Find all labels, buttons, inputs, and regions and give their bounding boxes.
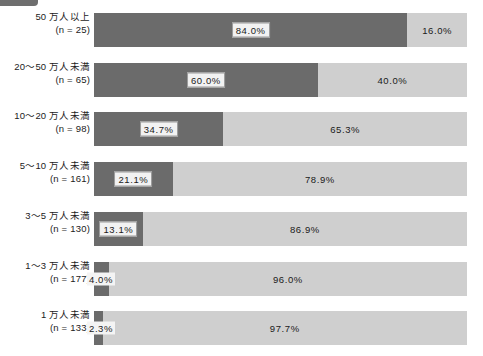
dark-segment-percent-label: 4.0%	[87, 273, 115, 286]
light-segment-percent-label: 86.9%	[290, 224, 320, 235]
category-label: 20〜50 万人未満(n = 65)	[0, 61, 90, 86]
dark-segment-percent-label: 84.0%	[232, 23, 270, 38]
chart-row: 3〜5 万人未満(n = 130)	[0, 212, 483, 246]
category-label-n: (n = 65)	[0, 74, 90, 87]
dark-segment-percent-label: 2.3%	[87, 322, 115, 335]
dark-segment-percent-label: 34.7%	[140, 122, 178, 137]
light-segment-percent-label: 96.0%	[273, 274, 303, 285]
light-segment-percent-label: 78.9%	[305, 174, 335, 185]
light-segment-percent-label: 65.3%	[330, 124, 360, 135]
category-label-n: (n = 25)	[0, 24, 90, 37]
chart-row: 1〜3 万人未満(n = 177)	[0, 262, 483, 296]
light-segment-percent-label: 16.0%	[422, 25, 452, 36]
category-label: 5〜10 万人未満(n = 161)	[0, 160, 90, 185]
chart-row: 10〜20 万人未満(n = 98)	[0, 112, 483, 146]
category-label-name: 5〜10 万人未満	[20, 160, 90, 171]
category-label: 1〜3 万人未満(n = 177)	[0, 260, 90, 285]
bar-track	[94, 13, 467, 47]
dark-segment-percent-label: 13.1%	[99, 222, 137, 237]
category-label-n: (n = 161)	[0, 173, 90, 186]
category-label-name: 10〜20 万人未満	[14, 110, 90, 121]
light-segment-percent-label: 40.0%	[377, 75, 407, 86]
stacked-bar-chart: 1 万人未満(n = 133)1〜3 万人未満(n = 177)3〜5 万人未満…	[0, 0, 483, 356]
dark-segment-percent-label: 21.1%	[114, 172, 152, 187]
category-label-n: (n = 130)	[0, 223, 90, 236]
bar-track	[94, 63, 467, 97]
light-segment-percent-label: 97.7%	[270, 323, 300, 334]
bar-track	[94, 212, 467, 246]
category-label-name: 3〜5 万人未満	[25, 210, 90, 221]
dark-segment-percent-label: 60.0%	[187, 73, 225, 88]
category-label-name: 20〜50 万人未満	[14, 61, 90, 72]
category-label: 3〜5 万人未満(n = 130)	[0, 210, 90, 235]
category-label: 1 万人未満(n = 133)	[0, 309, 90, 334]
category-label-n: (n = 98)	[0, 123, 90, 136]
category-label-name: 1 万人未満	[41, 309, 90, 320]
category-label-n: (n = 133)	[0, 322, 90, 335]
category-label: 10〜20 万人未満(n = 98)	[0, 110, 90, 135]
chart-row: 5〜10 万人未満(n = 161)	[0, 162, 483, 196]
category-label-n: (n = 177)	[0, 273, 90, 286]
category-label-name: 1〜3 万人未満	[25, 260, 90, 271]
chart-row: 20〜50 万人未満(n = 65)	[0, 63, 483, 97]
category-label: 50 万人以上(n = 25)	[0, 11, 90, 36]
category-label-name: 50 万人以上	[35, 11, 90, 22]
chart-row: 1 万人未満(n = 133)	[0, 311, 483, 345]
